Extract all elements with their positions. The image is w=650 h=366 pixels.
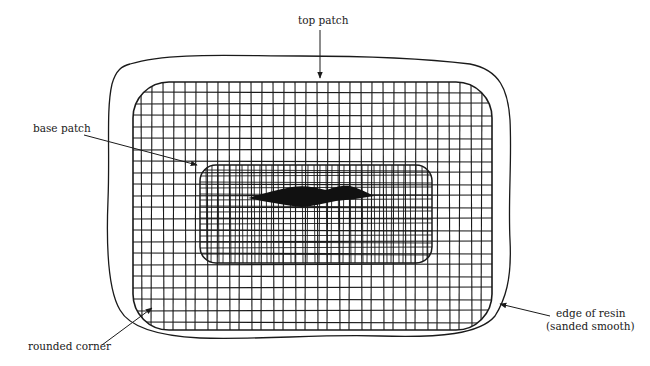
label-sanded-smooth: (sanded smooth) xyxy=(546,320,635,333)
label-rounded-corner: rounded corner xyxy=(28,340,111,353)
patch-diagram xyxy=(0,0,650,366)
label-edge-of-resin: edge of resin xyxy=(556,307,626,320)
label-base-patch: base patch xyxy=(33,122,91,135)
top-patch-mesh xyxy=(130,80,495,332)
edge-of-resin-leader xyxy=(500,304,550,316)
label-top-patch: top patch xyxy=(298,14,348,27)
base-patch-mesh xyxy=(200,165,432,263)
damage-hole xyxy=(248,186,374,207)
